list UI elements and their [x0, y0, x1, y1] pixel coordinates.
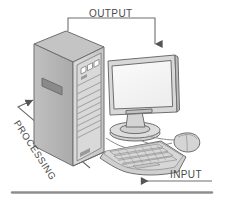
output-label: OUTPUT [89, 8, 133, 19]
input-label: INPUT [170, 169, 202, 180]
diagram-canvas: OUTPUT PROCESSING INPUT [0, 0, 226, 204]
tower [34, 31, 104, 166]
monitor [108, 55, 180, 141]
mouse [174, 133, 200, 152]
